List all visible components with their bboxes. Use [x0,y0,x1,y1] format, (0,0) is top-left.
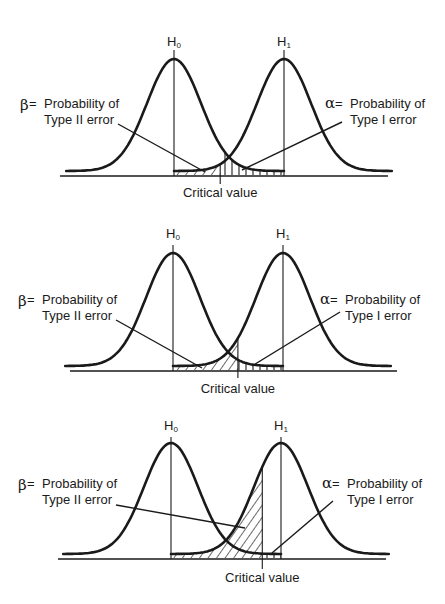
alpha-line-2: Type I error [347,492,414,507]
beta-line-1: Probability of [42,476,118,491]
beta-leader-line [118,124,205,172]
beta-symbol: β [18,292,27,310]
alpha-equals: = [335,96,343,111]
alpha-symbol: α [325,94,335,112]
alpha-symbol: α [322,474,332,492]
alpha-label: α=Probability ofType I error [320,290,421,323]
beta-leader-line [116,505,245,528]
critical-value-label: Critical value [183,185,257,200]
beta-symbol: β [20,96,29,114]
panel-3: H0H1β=Probability ofType II errorα=Proba… [18,418,423,585]
beta-label: β=Probability ofType II error [18,476,118,507]
alpha-leader-line [242,122,342,170]
h0-label: H0 [167,34,181,50]
error-types-diagram: H0H1β=Probability ofType II errorα=Proba… [0,0,445,604]
alpha-label: α=Probability ofType I error [325,94,426,127]
h1-label: H1 [276,226,290,242]
beta-equals: = [29,96,37,111]
alpha-line-1: Probability of [347,476,423,491]
beta-label: β=Probability ofType II error [18,292,118,323]
beta-line-2: Type II error [42,492,113,507]
alpha-equals: = [330,292,338,307]
beta-line-1: Probability of [42,292,118,307]
critical-value-label: Critical value [225,570,299,585]
panel-2: H0H1β=Probability ofType II errorα=Proba… [18,226,421,396]
h0-label: H0 [166,226,180,242]
beta-line-1: Probability of [44,96,120,111]
beta-line-2: Type II error [42,308,113,323]
alpha-line-2: Type I error [345,308,412,323]
alpha-line-1: Probability of [350,96,426,111]
beta-region [171,467,262,558]
beta-equals: = [27,476,35,491]
alpha-equals: = [332,476,340,491]
h1-label: H1 [274,418,288,434]
h0-label: H0 [164,418,178,434]
alpha-line-2: Type I error [350,112,417,127]
beta-symbol: β [18,476,27,494]
beta-label: β=Probability ofType II error [20,96,120,127]
beta-line-2: Type II error [44,112,115,127]
beta-equals: = [27,292,35,307]
critical-value-label: Critical value [201,381,275,396]
alpha-label: α=Probability ofType I error [322,474,423,507]
panel-1: H0H1β=Probability ofType II errorα=Proba… [20,34,426,200]
h1-label: H1 [277,34,291,50]
beta-leader-line [116,320,202,368]
alpha-leader-line [252,312,340,366]
alpha-symbol: α [320,290,330,308]
alpha-line-1: Probability of [345,292,421,307]
